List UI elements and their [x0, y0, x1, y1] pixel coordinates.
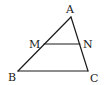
point-label-n: N: [83, 38, 93, 51]
triangle-diagram: A M N B C: [0, 0, 104, 85]
point-label-m: M: [29, 38, 40, 51]
vertex-label-c: C: [90, 72, 98, 85]
vertex-label-b: B: [8, 71, 16, 84]
diagram-canvas: A M N B C: [0, 0, 104, 85]
vertex-label-a: A: [65, 3, 75, 16]
